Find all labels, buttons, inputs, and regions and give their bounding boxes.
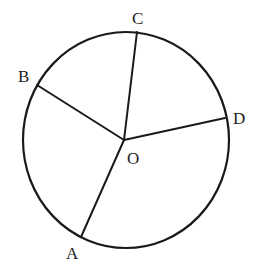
point-label-c: C bbox=[132, 9, 143, 28]
center-label-o: O bbox=[127, 149, 139, 168]
point-label-d: D bbox=[233, 109, 245, 128]
point-label-b: B bbox=[18, 67, 29, 86]
radius-oa bbox=[81, 140, 124, 237]
radius-od bbox=[124, 118, 225, 140]
point-label-a: A bbox=[66, 244, 79, 263]
radius-ob bbox=[37, 85, 124, 140]
radius-oc bbox=[124, 32, 137, 140]
circle-diagram: ABCD O bbox=[0, 0, 260, 267]
labels-group: ABCD bbox=[18, 9, 245, 263]
